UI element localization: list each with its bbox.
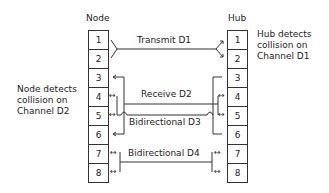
node-d1-merge [111,40,117,58]
hub-d1-fork-down [216,49,223,57]
hub-pin4-double-arrow-icon: ↔ [218,92,225,100]
hub-d1-fork-up [216,41,223,49]
hub-pin7-double-arrow-icon: ↔ [214,149,221,157]
node-pin7-double-arrow-icon: ↔ [110,149,117,157]
node-pin5-double-arrow-icon: ↔ [109,111,116,119]
channel-label-transmit-d1: Transmit D1 [137,35,191,46]
pinout-diagram: Node Hub Node detects collision on Chann… [0,0,329,193]
channel-label-bidirectional-d4: Bidirectional D4 [128,148,200,159]
hub-pin5-double-arrow-icon: ↔ [218,111,225,119]
channel-label-bidirectional-d3: Bidirectional D3 [129,117,201,128]
node-pin4-double-arrow-icon: ↔ [109,92,116,100]
bidirectional-d3-line [117,112,213,115]
node-pin8-double-arrow-icon: ↔ [110,168,117,176]
channel-label-receive-d2: Receive D2 [141,89,192,100]
hub-pin8-double-arrow-icon: ↔ [214,168,221,176]
